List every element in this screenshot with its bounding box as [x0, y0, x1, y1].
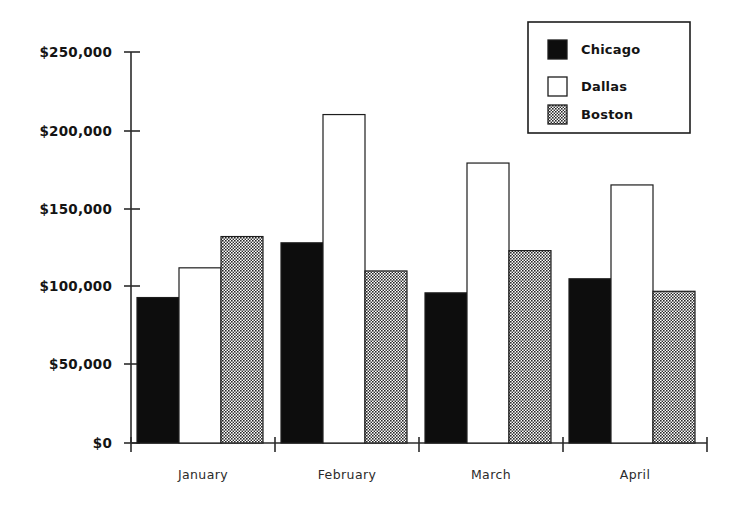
- y-tick-label: $150,000: [40, 201, 112, 217]
- x-tick-label: March: [471, 467, 511, 482]
- bar-boston-april: [653, 291, 695, 443]
- chart-canvas: $250,000 $200,000 $150,000 $100,000 $50,…: [0, 0, 738, 513]
- x-tick-label: February: [318, 467, 377, 482]
- bar-dallas-march: [467, 163, 509, 443]
- legend-label-chicago: Chicago: [581, 42, 640, 57]
- bar-boston-march: [509, 251, 551, 443]
- x-axis-labels: January February March April: [177, 467, 650, 482]
- bar-chart: $250,000 $200,000 $150,000 $100,000 $50,…: [0, 0, 738, 513]
- bar-dallas-january: [179, 268, 221, 443]
- y-tick-label: $100,000: [40, 278, 112, 294]
- legend-swatch-dallas: [548, 77, 567, 96]
- y-tick-label: $250,000: [40, 44, 112, 60]
- legend-swatch-chicago: [548, 40, 567, 59]
- legend-label-dallas: Dallas: [581, 79, 627, 94]
- bar-boston-february: [365, 271, 407, 443]
- bar-boston-january: [221, 237, 263, 443]
- bar-chicago-march: [425, 293, 467, 443]
- x-tick-label: January: [177, 467, 228, 482]
- y-tick-label: $0: [93, 435, 112, 451]
- legend-label-boston: Boston: [581, 107, 633, 122]
- bar-chicago-february: [281, 243, 323, 443]
- x-tick-label: April: [620, 467, 651, 482]
- bar-chicago-january: [137, 298, 179, 443]
- y-axis-ticks: $250,000 $200,000 $150,000 $100,000 $50,…: [40, 44, 140, 451]
- legend-swatch-boston: [548, 105, 567, 124]
- bar-dallas-april: [611, 185, 653, 443]
- legend: Chicago Dallas Boston: [528, 22, 690, 133]
- y-tick-label: $50,000: [49, 356, 112, 372]
- bars-layer: [137, 115, 695, 443]
- bar-chicago-april: [569, 279, 611, 443]
- bar-dallas-february: [323, 115, 365, 443]
- y-tick-label: $200,000: [40, 123, 112, 139]
